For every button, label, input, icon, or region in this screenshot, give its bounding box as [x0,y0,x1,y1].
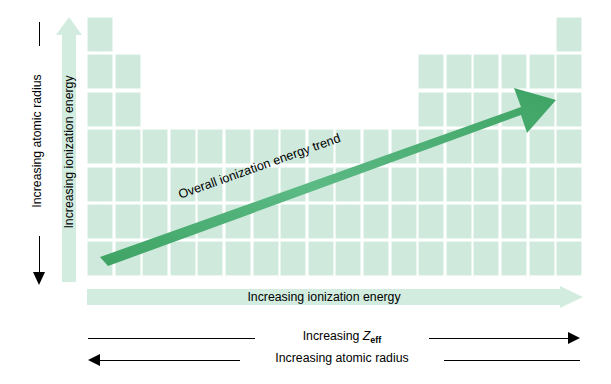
periodic-table-grid [87,17,583,280]
periodic-table-cell [473,204,499,239]
periodic-table-cell [501,129,527,164]
periodic-table-cell [225,204,251,239]
periodic-table-cell [556,17,582,52]
periodic-table-cell [115,241,141,276]
periodic-table-cell [142,241,168,276]
periodic-table-cell [280,204,306,239]
periodic-table-cell [142,167,168,202]
periodic-table-cell [87,92,113,127]
periodic-table-cell [391,241,417,276]
periodic-table-cell [335,129,361,164]
periodic-table-cell [446,92,472,127]
periodic-table-cell [418,167,444,202]
periodic-table-cell [446,54,472,89]
periodic-table-cell [418,129,444,164]
arrow-right-icon [560,286,583,308]
periodic-table-cell [473,241,499,276]
periodic-table-cell [446,241,472,276]
periodic-table-cell [501,167,527,202]
periodic-table-cell [363,167,389,202]
periodic-table-cell [253,241,279,276]
periodic-table-cell [363,241,389,276]
periodic-table-cell [446,129,472,164]
periodic-table-cell [391,167,417,202]
periodic-table-cell [556,241,582,276]
periodic-table-cell [446,204,472,239]
periodic-table-cell [363,129,389,164]
periodic-table-cell [335,241,361,276]
periodic-table-cell [87,129,113,164]
vertical-atomic-radius-arrow: Increasing atomic radius [18,22,60,284]
zeff-label-prefix: Increasing [303,329,363,343]
periodic-table-cell [197,204,223,239]
periodic-table-cell [473,167,499,202]
periodic-table-cell [170,129,196,164]
periodic-table-cell [87,204,113,239]
periodic-table-cell [87,54,113,89]
periodic-table-cell [253,204,279,239]
atomic-radius-arrow-row: Increasing atomic radius [80,350,590,370]
periodic-table-cell [363,204,389,239]
periodic-table-cell [501,204,527,239]
periodic-table-cell [556,54,582,89]
horizontal-ionization-energy-label: Increasing ionization energy [87,289,561,305]
periodic-table-cell [391,204,417,239]
periodic-table-cell [418,241,444,276]
zeff-label: Increasing Zeff [255,329,429,345]
periodic-table-cell [529,92,555,127]
horizontal-atomic-radius-label: Increasing atomic radius [240,351,444,365]
periodic-table-cell [197,241,223,276]
periodic-table-cell [308,204,334,239]
periodic-table-cell [115,204,141,239]
zeff-arrow-row: Increasing Zeff [80,328,590,348]
periodic-table-cell [556,92,582,127]
horizontal-ionization-energy-arrow: Increasing ionization energy [87,286,583,308]
arrow-right-icon [568,332,580,344]
periodic-table-cell [556,129,582,164]
periodic-table-cell [335,204,361,239]
periodic-table-cell [115,54,141,89]
periodic-table-cell [335,167,361,202]
periodic-table-cell [473,92,499,127]
periodic-table-cell [446,167,472,202]
arrow-down-icon [33,272,45,285]
periodic-table-cell [170,241,196,276]
periodic-table-cell [529,167,555,202]
periodic-table-cell [115,129,141,164]
periodic-table-cell [529,129,555,164]
periodic-table-cell [473,129,499,164]
periodic-table-cell [142,129,168,164]
vertical-ionization-energy-label: Increasing ionization energy [62,52,76,252]
periodic-table-cell [391,129,417,164]
periodic-table-cell [556,204,582,239]
vertical-atomic-radius-label: Increasing atomic radius [28,46,46,236]
periodic-trends-diagram: Increasing atomic radius Increasing ioni… [0,0,611,384]
periodic-table-cell [529,54,555,89]
periodic-table-cell [142,204,168,239]
periodic-table-cell [556,167,582,202]
periodic-table-cell [225,129,251,164]
periodic-table-cell [501,54,527,89]
periodic-table-cell [280,241,306,276]
periodic-table-cell [308,167,334,202]
periodic-table-cell [87,241,113,276]
periodic-table-cell [170,204,196,239]
periodic-table-cell [418,54,444,89]
zeff-subscript: eff [370,335,381,345]
periodic-table-cell [280,167,306,202]
periodic-table-cell [197,129,223,164]
periodic-table-cell [87,17,113,52]
periodic-table-cell [308,241,334,276]
periodic-table-cell [473,54,499,89]
periodic-table-cell [115,92,141,127]
periodic-table-cell [225,241,251,276]
periodic-table-cell [529,241,555,276]
periodic-table-cell [418,92,444,127]
periodic-table-cell [501,241,527,276]
periodic-table-cell [529,204,555,239]
periodic-table-cell [501,92,527,127]
periodic-table-cell [115,167,141,202]
periodic-table-cell [87,167,113,202]
periodic-table-cell [418,204,444,239]
